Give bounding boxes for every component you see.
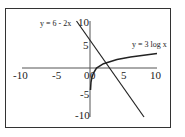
annotation-log: y = 3 log x: [132, 41, 167, 49]
y-tick-label: 10: [78, 17, 89, 28]
x-tick-label: -10: [13, 70, 28, 81]
y-tick-label: -5: [80, 89, 89, 100]
y-tick-label: 0: [90, 70, 96, 81]
x-tick-label: 0: [84, 70, 90, 81]
x-tick-label: 5: [121, 70, 127, 81]
annotation-linear: y = 6 - 2x: [40, 20, 71, 28]
y-tick-label: 5: [83, 40, 89, 51]
x-tick-label: -5: [52, 70, 61, 81]
y-tick-label: -10: [75, 110, 90, 121]
x-tick-label: 10: [150, 70, 161, 81]
